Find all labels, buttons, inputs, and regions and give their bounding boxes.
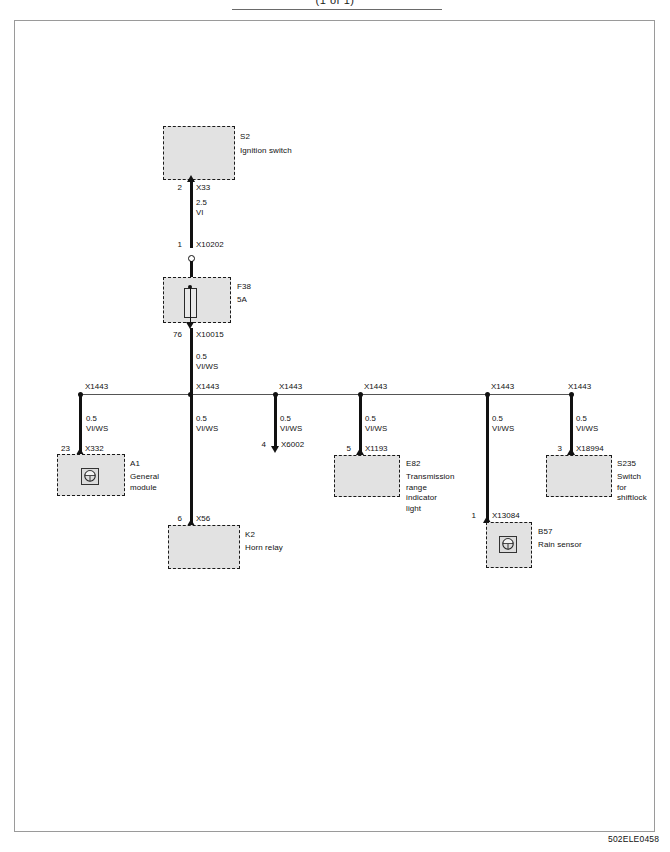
header-divider (232, 9, 442, 10)
wire-branch-x6002 (274, 394, 277, 449)
pin-s235: 3 (548, 444, 562, 453)
connector-s235: X18994 (576, 444, 604, 453)
pin-fuse-out: 76 (166, 330, 182, 339)
wire-label-fuse-to-bus: 0.5 VI/WS (196, 352, 218, 372)
wire-color-supply: VI (196, 208, 203, 217)
component-id-s2: S2 (240, 132, 250, 143)
document-code: 502ELE0458 (608, 834, 659, 844)
wire-gauge-a1: 0.5 (86, 414, 97, 423)
component-name-b57: Rain sensor (538, 540, 582, 551)
component-box-s235[interactable] (546, 455, 612, 497)
component-id-b57: B57 (538, 527, 553, 538)
bus-label-2: X1443 (196, 382, 219, 391)
component-id-a1: A1 (130, 459, 140, 470)
wire-color-k2: VI/WS (196, 424, 218, 433)
connector-fuse-out: X10015 (196, 330, 224, 339)
component-name-k2: Horn relay (245, 543, 283, 554)
component-box-k2[interactable] (168, 525, 240, 569)
connector-s2: X33 (196, 183, 210, 192)
wire-gauge-supply: 2.5 (196, 198, 207, 207)
pin-b57: 1 (462, 511, 476, 520)
wire-gauge-b57: 0.5 (492, 414, 503, 423)
wire-branch-k2 (190, 394, 193, 523)
wire-color-a1: VI/WS (86, 424, 108, 433)
pin-k2: 6 (166, 514, 182, 523)
wire-label-branch-b57: 0.5 VI/WS (492, 414, 514, 434)
connector-a1: X332 (85, 444, 104, 453)
wire-branch-a1 (79, 394, 82, 452)
bus-label-4: X1443 (364, 382, 387, 391)
wire-branch-e82 (359, 394, 362, 452)
wire-label-branch-s235: 0.5 VI/WS (576, 414, 598, 434)
page-title: (1 of 1) (0, 0, 670, 6)
wiring-diagram-page: (1 of 1) S2 Ignition switch 2 X33 2.5 VI… (0, 0, 670, 852)
wire-label-branch-a1: 0.5 VI/WS (86, 414, 108, 434)
component-id-e82: E82 (406, 459, 421, 470)
pin-s2: 2 (168, 183, 182, 192)
wire-gauge-main: 0.5 (196, 352, 207, 361)
connector-x6002: X6002 (281, 440, 304, 449)
connector-fuse-in: X10202 (196, 240, 224, 249)
connector-e82: X1193 (365, 444, 388, 453)
wire-branch-b57 (486, 394, 489, 520)
arrow-into-e82 (356, 448, 364, 455)
wire-gauge-e82: 0.5 (365, 414, 376, 423)
component-rating-f38: 5A (237, 295, 247, 306)
wire-label-branch-k2: 0.5 VI/WS (196, 414, 218, 434)
wire-gauge-k2: 0.5 (196, 414, 207, 423)
wire-color-b57: VI/WS (492, 424, 514, 433)
wire-supply-s2-fuse (190, 180, 193, 248)
component-name-s2: Ignition switch (240, 146, 292, 157)
pin-e82: 5 (337, 444, 351, 453)
wire-fuse-to-bus (190, 328, 193, 394)
arrow-out-x6002 (271, 446, 279, 453)
component-id-s235: S235 (617, 459, 636, 470)
wire-label-branch-e82: 0.5 VI/WS (365, 414, 387, 434)
arrow-into-s235 (567, 448, 575, 455)
component-name-a1: General module (130, 472, 159, 493)
pin-a1: 23 (54, 444, 70, 453)
component-box-e82[interactable] (334, 455, 400, 497)
connector-b57: X13084 (492, 511, 520, 520)
component-id-f38: F38 (237, 282, 251, 293)
wire-label-supply: 2.5 VI (196, 198, 207, 218)
component-box-f38[interactable] (163, 277, 231, 323)
bus-label-5: X1443 (491, 382, 514, 391)
wire-inside-fuse (190, 286, 192, 322)
wire-color-e82: VI/WS (365, 424, 387, 433)
component-id-k2: K2 (245, 530, 255, 541)
wire-color-s235: VI/WS (576, 424, 598, 433)
bus-label-6: X1443 (568, 382, 591, 391)
pin-x6002: 4 (252, 440, 266, 449)
wire-color-x6002: VI/WS (280, 424, 302, 433)
wire-gauge-x6002: 0.5 (280, 414, 291, 423)
wire-color-main: VI/WS (196, 362, 218, 371)
pin-fuse-in: 1 (168, 240, 182, 249)
wire-branch-s235 (570, 394, 573, 452)
connector-k2: X56 (196, 514, 210, 523)
component-name-e82: Transmission range indicator light (406, 472, 454, 514)
wire-label-branch-x6002: 0.5 VI/WS (280, 414, 302, 434)
component-name-s235: Switch for shiftlock (617, 472, 647, 504)
round-connector-icon-a1 (81, 468, 99, 485)
bus-line-x1443 (80, 394, 571, 395)
diagram-frame (14, 20, 655, 832)
wire-gauge-s235: 0.5 (576, 414, 587, 423)
round-connector-icon-b57 (499, 536, 517, 553)
component-box-s2[interactable] (163, 126, 235, 180)
bus-label-3: X1443 (279, 382, 302, 391)
bus-label-1: X1443 (85, 382, 108, 391)
